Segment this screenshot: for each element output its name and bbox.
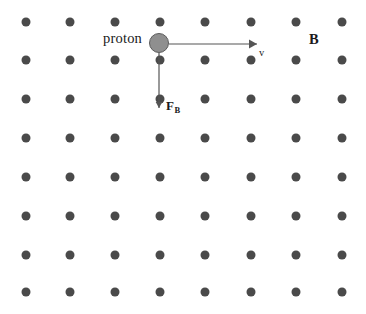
field-dot — [156, 134, 165, 143]
field-dot — [201, 56, 210, 65]
field-dot — [22, 134, 31, 143]
field-dot — [66, 134, 75, 143]
field-dot — [338, 95, 347, 104]
field-dot — [292, 95, 301, 104]
field-dot — [111, 95, 120, 104]
field-dot — [338, 212, 347, 221]
field-dot — [292, 288, 301, 297]
field-dot — [22, 56, 31, 65]
field-dot — [201, 251, 210, 260]
field-dot — [292, 251, 301, 260]
field-dot — [247, 173, 256, 182]
field-dot — [338, 173, 347, 182]
field-dot — [247, 212, 256, 221]
field-dot — [111, 134, 120, 143]
field-dot — [66, 251, 75, 260]
field-dot — [66, 173, 75, 182]
magnetic-field-diagram: proton B v FB — [0, 0, 366, 314]
field-dot — [247, 134, 256, 143]
field-dot — [156, 288, 165, 297]
field-dot — [22, 18, 31, 27]
field-dot — [66, 212, 75, 221]
field-dot — [292, 56, 301, 65]
magnetic-force-vector-label: FB — [166, 99, 180, 112]
field-dot — [292, 212, 301, 221]
field-dot — [22, 288, 31, 297]
velocity-vector-label: v — [259, 48, 264, 59]
field-dot — [201, 95, 210, 104]
field-dot — [66, 95, 75, 104]
proton-circle — [150, 34, 169, 53]
field-dot — [111, 56, 120, 65]
field-dot — [247, 288, 256, 297]
field-dot — [201, 18, 210, 27]
field-dot — [338, 134, 347, 143]
field-dot — [338, 56, 347, 65]
field-dot — [292, 18, 301, 27]
field-dot — [292, 173, 301, 182]
field-dot — [156, 56, 165, 65]
field-dot — [338, 251, 347, 260]
field-dot — [66, 56, 75, 65]
field-dot — [66, 18, 75, 27]
field-dot — [201, 288, 210, 297]
force-arrow-head — [156, 102, 163, 108]
field-dot — [66, 288, 75, 297]
field-dot — [111, 251, 120, 260]
field-dot — [22, 95, 31, 104]
proton-label: proton — [103, 31, 142, 46]
field-dot — [247, 95, 256, 104]
field-dot — [156, 251, 165, 260]
field-dot — [247, 251, 256, 260]
field-dot — [292, 134, 301, 143]
field-dot — [111, 288, 120, 297]
field-dot — [156, 212, 165, 221]
field-dot — [22, 212, 31, 221]
field-dot — [22, 173, 31, 182]
field-dot — [201, 134, 210, 143]
force-subscript: B — [174, 105, 180, 115]
field-canvas — [0, 0, 366, 314]
field-dot — [156, 173, 165, 182]
field-dot — [111, 212, 120, 221]
force-symbol: F — [166, 98, 174, 113]
field-dot — [201, 212, 210, 221]
field-dot — [201, 173, 210, 182]
field-dot — [338, 288, 347, 297]
field-dot — [247, 18, 256, 27]
field-dot — [111, 173, 120, 182]
field-dot — [22, 251, 31, 260]
magnetic-field-dot-grid — [22, 18, 347, 297]
field-dot — [338, 18, 347, 27]
field-dot — [156, 18, 165, 27]
field-dot — [247, 56, 256, 65]
magnetic-field-label: B — [309, 32, 319, 47]
velocity-arrow-head — [249, 40, 257, 49]
field-dot — [111, 18, 120, 27]
proton-marker — [150, 34, 169, 53]
